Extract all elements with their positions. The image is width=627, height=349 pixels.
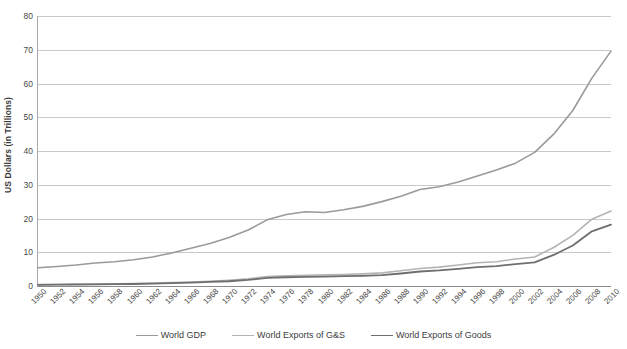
plot-area: [37, 16, 611, 287]
legend-item-world-exports-of-goods[interactable]: World Exports of Goods: [371, 330, 491, 340]
y-tick-label-0: 0: [12, 281, 37, 291]
legend-item-world-exports-of-g-s[interactable]: World Exports of G&S: [232, 330, 345, 340]
legend-swatch-icon: [232, 335, 254, 336]
legend-label: World Exports of G&S: [257, 330, 345, 340]
gdp-exports-line-chart: US Dollars (in Trillions) 01020304050607…: [0, 0, 627, 349]
series-line-world-exports-of-goods: [38, 225, 611, 285]
x-axis-ticks: 1950195219541956195819601962196419661968…: [37, 287, 610, 327]
legend-label: World GDP: [161, 330, 206, 340]
y-tick-label-40: 40: [12, 146, 37, 156]
y-tick-label-50: 50: [12, 112, 37, 122]
chart-legend: World GDPWorld Exports of G&SWorld Expor…: [0, 325, 627, 345]
y-tick-label-70: 70: [12, 45, 37, 55]
series-line-world-exports-of-g-s: [38, 211, 611, 285]
legend-item-world-gdp[interactable]: World GDP: [136, 330, 206, 340]
y-tick-label-80: 80: [12, 11, 37, 21]
y-tick-label-60: 60: [12, 79, 37, 89]
series-line-world-gdp: [38, 51, 611, 268]
y-tick-label-10: 10: [12, 247, 37, 257]
y-tick-label-20: 20: [12, 214, 37, 224]
legend-label: World Exports of Goods: [396, 330, 491, 340]
series-canvas: [38, 16, 611, 286]
y-tick-label-30: 30: [12, 180, 37, 190]
legend-swatch-icon: [136, 335, 158, 336]
legend-swatch-icon: [371, 335, 393, 336]
